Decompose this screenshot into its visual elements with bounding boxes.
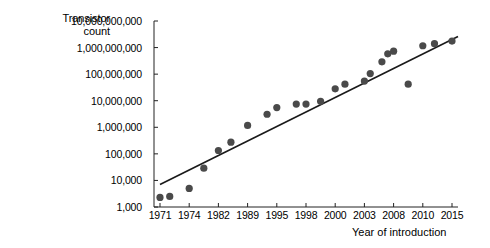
- data-point: [156, 194, 163, 201]
- x-axis-tick-label: 1974: [173, 210, 205, 221]
- axes: [154, 21, 458, 207]
- x-axis-tick-label: 2010: [407, 210, 439, 221]
- data-point: [317, 98, 324, 105]
- trend-line-segment: [160, 37, 458, 185]
- data-point: [405, 81, 412, 88]
- x-axis-tick-label: 1989: [232, 210, 264, 221]
- data-point: [390, 48, 397, 55]
- transistor-count-chart: Transistor count 10,000,000,0001,000,000…: [0, 0, 490, 248]
- data-point: [361, 77, 368, 84]
- data-point: [273, 104, 280, 111]
- data-point: [448, 38, 455, 45]
- data-point: [302, 100, 309, 107]
- axis-lines: [154, 21, 458, 207]
- x-axis-tick-label: 1995: [261, 210, 293, 221]
- x-axis-tick-label: 1971: [144, 210, 176, 221]
- x-axis-tick-label: 1982: [202, 210, 234, 221]
- data-point: [378, 58, 385, 65]
- x-axis-tick-label: 2015: [436, 210, 468, 221]
- x-axis-title: Year of introduction: [352, 226, 446, 238]
- data-point: [341, 81, 348, 88]
- data-points: [156, 38, 455, 201]
- x-axis-tick-label: 2008: [378, 210, 410, 221]
- data-point: [166, 193, 173, 200]
- data-point: [419, 42, 426, 49]
- data-point: [263, 111, 270, 118]
- data-point: [293, 100, 300, 107]
- data-point: [332, 85, 339, 92]
- data-point: [215, 147, 222, 154]
- data-point: [244, 122, 251, 129]
- data-point: [200, 165, 207, 172]
- x-axis-tick-label: 1998: [290, 210, 322, 221]
- data-point: [367, 70, 374, 77]
- x-axis-tick-label: 2003: [348, 210, 380, 221]
- trend-line: [160, 37, 458, 185]
- x-axis-tick-label: 2000: [319, 210, 351, 221]
- data-point: [227, 139, 234, 146]
- data-point: [431, 40, 438, 47]
- data-point: [186, 185, 193, 192]
